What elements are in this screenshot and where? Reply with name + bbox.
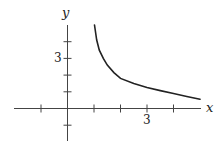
function-graph: y x 3 3 bbox=[0, 0, 222, 144]
y-axis-label: y bbox=[61, 5, 70, 20]
axes bbox=[14, 25, 201, 141]
x-axis-label: x bbox=[206, 100, 214, 115]
function-curve bbox=[95, 25, 201, 99]
y-tick-label-3: 3 bbox=[54, 51, 62, 65]
x-tick-label-3: 3 bbox=[143, 113, 151, 127]
